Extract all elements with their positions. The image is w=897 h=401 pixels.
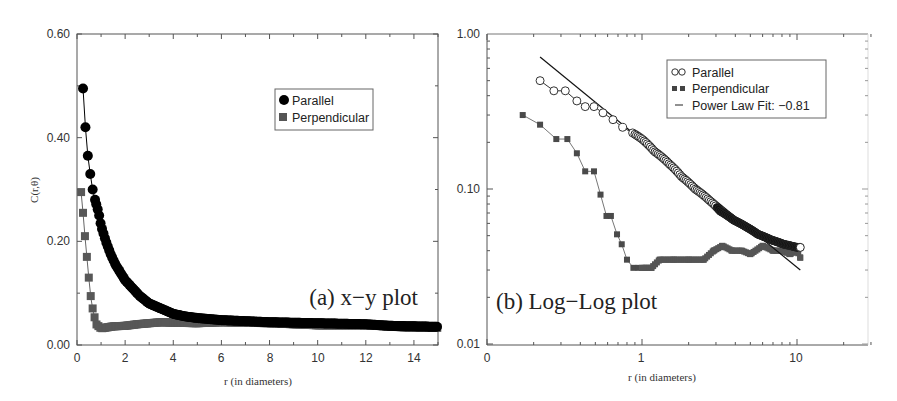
y-tick-label: 0.40 bbox=[47, 131, 71, 145]
panel-a-x-tick-labels: 0 2 4 6 8 10 12 14 bbox=[74, 351, 421, 365]
parallel-point bbox=[536, 77, 544, 85]
legend-label-perpendicular: Perpendicular bbox=[292, 111, 369, 125]
parallel-point bbox=[609, 116, 617, 124]
filled-square-marker-icon bbox=[680, 86, 685, 91]
y-tick-label: 1.00 bbox=[457, 27, 481, 41]
y-tick-label: 0.20 bbox=[47, 234, 71, 248]
legend-label-perpendicular: Perpendicular bbox=[692, 82, 769, 96]
parallel-point bbox=[796, 243, 804, 251]
perpendicular-point bbox=[591, 168, 597, 174]
panel-b-log-log-plot: 1.00 0.10 0.01 0 1 10 r (in diameters) (… bbox=[457, 27, 871, 384]
parallel-point bbox=[619, 123, 627, 131]
panel-a-y-tick-labels: 0.60 0.40 0.20 0.00 bbox=[47, 27, 71, 352]
y-tick-label: 0.10 bbox=[457, 182, 481, 196]
parallel-point bbox=[581, 103, 589, 111]
panel-b-y-tick-labels: 1.00 0.10 0.01 bbox=[457, 27, 481, 351]
parallel-point bbox=[85, 169, 95, 179]
parallel-point bbox=[80, 122, 90, 132]
perpendicular-point bbox=[624, 257, 630, 263]
figure: 0.60 0.40 0.20 0.00 0 2 4 6 8 10 12 14 r… bbox=[0, 0, 897, 401]
perpendicular-point bbox=[630, 265, 636, 271]
filled-square-marker-icon bbox=[279, 113, 287, 121]
x-tick-label: 4 bbox=[170, 351, 177, 365]
perpendicular-point bbox=[619, 241, 625, 247]
parallel-point bbox=[83, 151, 93, 161]
perpendicular-point bbox=[598, 192, 604, 198]
x-tick-label: 6 bbox=[218, 351, 225, 365]
x-tick-label: 8 bbox=[267, 351, 274, 365]
x-tick-label: 10 bbox=[311, 351, 325, 365]
x-tick-label: 2 bbox=[122, 351, 129, 365]
panel-b-x-tick-labels: 0 1 10 bbox=[484, 351, 803, 365]
perpendicular-point bbox=[797, 254, 803, 260]
filled-square-marker-icon bbox=[672, 86, 677, 91]
y-tick-label: 0.00 bbox=[47, 338, 71, 352]
parallel-point bbox=[561, 87, 569, 95]
y-tick-label: 0.60 bbox=[47, 27, 71, 41]
perpendicular-point bbox=[89, 304, 97, 312]
perpendicular-point bbox=[77, 188, 85, 196]
perpendicular-point bbox=[83, 253, 91, 261]
filled-circle-marker-icon bbox=[279, 95, 289, 105]
perpendicular-point bbox=[79, 209, 87, 217]
parallel-point bbox=[590, 103, 598, 111]
perpendicular-point bbox=[91, 313, 99, 321]
panel-b-legend: Parallel Perpendicular Power Law Fit: −0… bbox=[667, 60, 826, 118]
perpendicular-point bbox=[608, 213, 614, 219]
x-tick-label: 0 bbox=[484, 351, 491, 365]
panel-a-legend: Parallel Perpendicular bbox=[275, 89, 373, 130]
legend-label-parallel: Parallel bbox=[692, 66, 734, 80]
parallel-point bbox=[599, 109, 607, 117]
x-tick-label: 14 bbox=[407, 351, 421, 365]
perpendicular-point bbox=[564, 136, 570, 142]
panel-b-x-axis-title: r (in diameters) bbox=[628, 371, 696, 384]
x-tick-label: 0 bbox=[74, 351, 81, 365]
perpendicular-point bbox=[537, 122, 543, 128]
x-tick-label: 12 bbox=[359, 351, 373, 365]
parallel-point bbox=[432, 322, 442, 332]
perpendicular-point bbox=[520, 112, 526, 118]
perpendicular-point bbox=[87, 292, 95, 300]
perpendicular-point bbox=[614, 231, 620, 237]
panel-a-y-axis-title: C(r,θ) bbox=[28, 177, 41, 203]
legend-label-power-law-fit: Power Law Fit: −0.81 bbox=[692, 99, 810, 113]
panel-a-x-axis-title: r (in diameters) bbox=[224, 375, 292, 388]
parallel-point bbox=[78, 83, 88, 93]
perpendicular-point bbox=[582, 168, 588, 174]
panel-a-xy-plot: 0.60 0.40 0.20 0.00 0 2 4 6 8 10 12 14 r… bbox=[28, 27, 442, 388]
panel-b-label: (b) Log−Log plot bbox=[496, 289, 658, 314]
x-tick-label: 1 bbox=[638, 351, 645, 365]
parallel-point bbox=[550, 87, 558, 95]
y-tick-label: 0.01 bbox=[457, 337, 481, 351]
legend-label-parallel: Parallel bbox=[292, 94, 334, 108]
perpendicular-point bbox=[574, 150, 580, 156]
panel-a-label: (a) x−y plot bbox=[309, 285, 418, 310]
perpendicular-point bbox=[81, 232, 89, 240]
parallel-point bbox=[573, 97, 581, 105]
perpendicular-point bbox=[85, 274, 93, 282]
perpendicular-point bbox=[553, 136, 559, 142]
x-tick-label: 10 bbox=[789, 351, 803, 365]
parallel-point bbox=[88, 185, 98, 195]
